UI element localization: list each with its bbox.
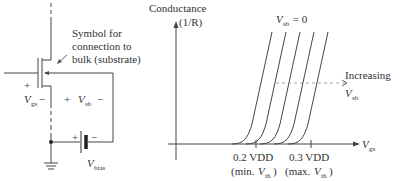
curve-vsb-4 — [288, 32, 328, 144]
tick1-post: ) — [273, 165, 277, 178]
curve-label-sub: sb — [283, 20, 290, 28]
bias-plus: + — [72, 131, 78, 143]
tick2-line2-pre: (max. — [285, 165, 313, 178]
annotation-line-3: bulk (substrate) — [72, 53, 141, 66]
vsb-plus: + — [64, 93, 70, 105]
x-axis-arrow-icon — [353, 142, 360, 147]
y-axis-arrow-icon — [174, 21, 179, 28]
curve-vsb-0 — [232, 32, 272, 144]
curve-vsb-2 — [260, 32, 300, 144]
bulk-arrow-icon — [44, 71, 49, 75]
vgs-minus: − — [39, 93, 45, 105]
curve-vsb-3 — [274, 32, 314, 144]
vbias-sub: bias — [94, 164, 106, 172]
increasing-var-sub: sb — [352, 94, 359, 102]
curve-vsb-1 — [246, 32, 286, 144]
annotation-line-2: connection to — [72, 40, 132, 52]
tick2-line1: 0.3 VDD — [289, 151, 329, 163]
vsb-sub: sb — [85, 100, 92, 108]
vsb-minus: − — [97, 93, 103, 105]
tick1-line2-pre: (min. — [231, 165, 257, 178]
tick1-sub: th — [265, 172, 271, 180]
y-axis-unit: (1/R) — [179, 16, 203, 29]
y-axis-title: Conductance — [149, 2, 207, 14]
conductance-chart — [168, 21, 360, 160]
increasing-label: Increasing — [345, 69, 391, 81]
annotation-line-1: Symbol for — [72, 27, 122, 39]
vgs-plus: + — [24, 79, 30, 91]
tick2-sub: th — [321, 172, 327, 180]
tick1-line1: 0.2 VDD — [233, 151, 273, 163]
curve-label-eq: = 0 — [290, 13, 308, 25]
bias-minus: − — [91, 131, 97, 143]
tick2-post: ) — [329, 165, 333, 178]
x-axis-sub: gs — [369, 145, 376, 153]
vgs-sub: gs — [31, 100, 38, 108]
mosfet-body-effect-diagram: Symbol for connection to bulk (substrate… — [0, 0, 400, 181]
